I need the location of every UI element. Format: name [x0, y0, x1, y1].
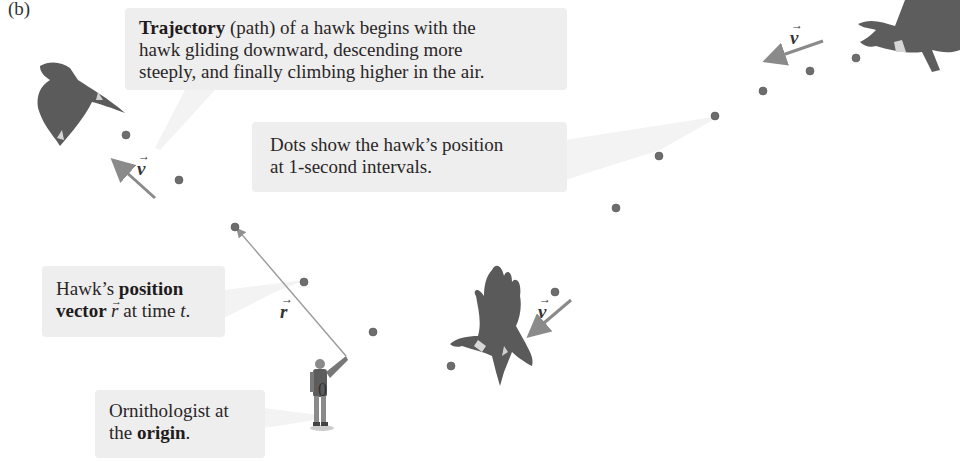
dots-pointer: [565, 116, 720, 180]
trajectory-dot: [612, 204, 620, 212]
trajectory-dot: [759, 87, 767, 95]
trajectory-text-1: (path) of a hawk begins with the: [225, 17, 476, 38]
hawk-top-left-icon: [38, 62, 126, 146]
at-time-text: at time: [118, 300, 180, 321]
trajectory-pointer: [155, 90, 215, 150]
trajectory-dot: [447, 362, 455, 370]
trajectory-dot: [122, 131, 130, 139]
r-symbol: →r: [111, 300, 118, 321]
position-vector-callout: Hawk’s position vector →r at time t.: [42, 266, 225, 337]
trajectory-dot: [806, 67, 814, 75]
origin-label: 0: [318, 380, 327, 401]
hawk-top-right-icon: [858, 0, 960, 72]
trajectory-text-2: hawk gliding downward, descending more: [139, 39, 553, 61]
hawk-trajectory-figure: (b) Trajectory (path) of a hawk begins w…: [0, 0, 960, 461]
position-vector-label: →r: [280, 301, 287, 323]
trajectory-dot: [300, 278, 308, 286]
velocity-arrow-left: [115, 162, 155, 198]
dots-callout: Dots show the hawk’s position at 1-secon…: [252, 122, 567, 192]
dots-text-1: Dots show the hawk’s position: [270, 134, 549, 156]
velocity-label-middle: →v: [538, 301, 546, 323]
trajectory-dot: [175, 176, 183, 184]
hawk-diving-icon: [450, 266, 533, 386]
origin-callout: Ornithologist at the origin.: [95, 390, 265, 458]
ornithologist-icon: [310, 356, 348, 431]
panel-label: (b): [8, 0, 30, 20]
vector-term: vector: [56, 300, 111, 321]
trajectory-dot: [369, 328, 377, 336]
trajectory-dot: [231, 223, 239, 231]
trajectory-dot: [551, 288, 559, 296]
trajectory-callout: Trajectory (path) of a hawk begins with …: [125, 8, 567, 90]
trajectory-dot: [655, 152, 663, 160]
trajectory-term: Trajectory: [139, 17, 225, 38]
origin-pointer: [264, 408, 318, 428]
trajectory-dot: [852, 54, 860, 62]
velocity-label-left: →v: [137, 158, 145, 180]
trajectory-text-3: steeply, and finally climbing higher in …: [139, 61, 553, 83]
origin-text-1: Ornithologist at: [109, 400, 251, 422]
origin-term: origin: [137, 422, 186, 443]
dots-text-2: at 1-second intervals.: [270, 156, 549, 178]
velocity-arrow-middle: [531, 300, 571, 334]
position-text-plain: Hawk’s: [56, 278, 119, 299]
trajectory-dot: [711, 112, 719, 120]
position-term: position: [119, 278, 183, 299]
velocity-label-right: →v: [790, 27, 798, 49]
